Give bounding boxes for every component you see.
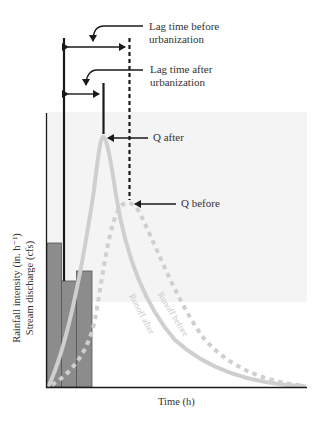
lag-after-label-line2: urbanization — [150, 76, 212, 89]
q-after-label: Q after — [153, 131, 184, 144]
lag-before-label-line2: urbanization — [149, 33, 219, 46]
lag-before-label-line1: Lag time before — [149, 20, 219, 33]
rainfall-bar-1 — [47, 243, 62, 387]
y-axis-label-line2: Stream discharge (cfs) — [23, 208, 36, 368]
lag-after-callout-arrow — [86, 70, 143, 85]
lag-after-label: Lag time after urbanization — [150, 63, 212, 89]
lag-before-callout-arrow — [93, 26, 143, 41]
q-before-label: Q before — [181, 197, 220, 210]
y-axis-label-line1: Rainfall intensity (in. h⁻¹) — [10, 208, 23, 368]
lag-before-label: Lag time before urbanization — [149, 20, 219, 46]
y-axis-label: Rainfall intensity (in. h⁻¹) Stream disc… — [10, 208, 36, 368]
lag-after-label-line1: Lag time after — [150, 63, 212, 76]
x-axis-label: Time (h) — [158, 395, 195, 408]
